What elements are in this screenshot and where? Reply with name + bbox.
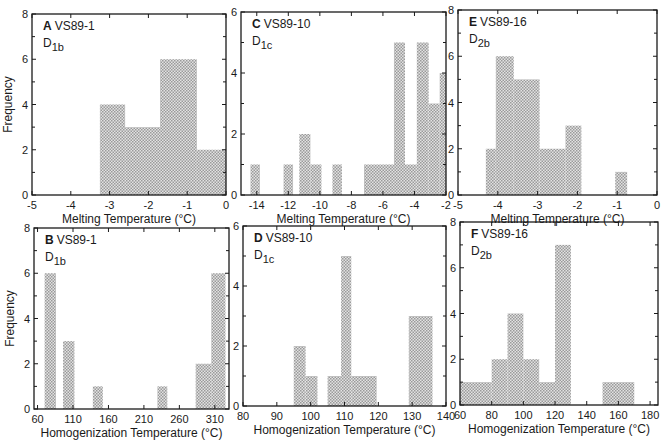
y-tick-label: 8 bbox=[22, 8, 28, 20]
sample-id: VS89-16 bbox=[480, 15, 527, 29]
panel-letter: E bbox=[469, 15, 477, 29]
x-tick-label: -1 bbox=[182, 199, 192, 211]
y-tick-label: 4 bbox=[231, 67, 237, 79]
histogram-bar bbox=[310, 165, 321, 196]
y-tick-label: 8 bbox=[24, 222, 30, 234]
x-tick-label: 0 bbox=[654, 199, 660, 211]
x-axis-label: Melting Temperature (°C) bbox=[491, 212, 625, 226]
histogram-bar bbox=[160, 59, 197, 195]
x-axis-label: Homogenization Temperature (°C) bbox=[254, 423, 436, 437]
x-tick-label: 310 bbox=[206, 413, 224, 425]
histogram-bar bbox=[45, 273, 56, 409]
x-tick-label: 110 bbox=[64, 413, 82, 425]
y-tick-label: 0 bbox=[22, 189, 28, 201]
x-axis-label: Homogenization Temperature (°C) bbox=[41, 426, 223, 440]
x-tick-label: 100 bbox=[514, 409, 532, 421]
x-axis-label: Melting Temperature (°C) bbox=[277, 212, 411, 226]
histogram-bar bbox=[294, 346, 306, 406]
histogram-bar bbox=[508, 314, 524, 406]
y-axis-label: Frequency bbox=[3, 290, 17, 347]
x-tick-label: 100 bbox=[301, 410, 319, 422]
x-tick-label: -2 bbox=[144, 199, 154, 211]
x-tick-label: -10 bbox=[312, 199, 328, 211]
histogram-bars bbox=[45, 273, 226, 409]
x-tick-label: 60 bbox=[31, 413, 43, 425]
stage-subscript: 1b bbox=[52, 41, 64, 53]
histogram-bar bbox=[460, 382, 492, 405]
histogram-panel-b: 6011016021026031002468Homogenization Tem… bbox=[3, 222, 229, 440]
stage-main: D bbox=[43, 36, 52, 50]
y-tick-label: 2 bbox=[450, 353, 456, 365]
deformation-stage: D1b bbox=[45, 250, 66, 267]
panel-title: CVS89-10 bbox=[252, 17, 311, 31]
x-tick-label: 160 bbox=[609, 409, 627, 421]
y-tick-label: 8 bbox=[448, 4, 454, 16]
x-tick-label: 0 bbox=[223, 199, 229, 211]
deformation-stage: D2b bbox=[471, 244, 492, 261]
histogram-bar bbox=[394, 43, 405, 196]
y-tick-label: 4 bbox=[22, 99, 28, 111]
x-tick-label: 260 bbox=[170, 413, 188, 425]
panel-title: BVS89-1 bbox=[45, 233, 97, 247]
x-tick-label: 130 bbox=[403, 410, 421, 422]
sample-id: VS89-10 bbox=[264, 17, 311, 31]
histogram-bar bbox=[125, 127, 160, 195]
histogram-bars bbox=[250, 43, 446, 196]
panel-letter: D bbox=[254, 231, 263, 245]
deformation-stage: D1c bbox=[252, 34, 273, 51]
stage-main: D bbox=[254, 248, 263, 262]
x-tick-label: -3 bbox=[533, 199, 543, 211]
panel-title: FVS89-16 bbox=[471, 227, 528, 241]
stage-main: D bbox=[469, 32, 478, 46]
x-tick-label: -4 bbox=[66, 199, 76, 211]
histogram-bar bbox=[523, 359, 539, 405]
histogram-bar bbox=[351, 376, 376, 406]
x-tick-label: 80 bbox=[486, 409, 498, 421]
histogram-bar bbox=[514, 79, 540, 195]
y-tick-label: 6 bbox=[450, 262, 456, 274]
histogram-panel-d: 80901001101201301400246Homogenization Te… bbox=[233, 220, 455, 437]
histogram-bar bbox=[364, 165, 394, 196]
histogram-bars bbox=[486, 56, 627, 195]
y-tick-label: 6 bbox=[24, 267, 30, 279]
stage-subscript: 1c bbox=[261, 39, 273, 51]
panel-letter: A bbox=[43, 19, 52, 33]
histogram-bar bbox=[100, 105, 125, 196]
y-tick-label: 2 bbox=[233, 340, 239, 352]
x-tick-label: 90 bbox=[271, 410, 283, 422]
histogram-bar bbox=[540, 149, 566, 195]
y-tick-label: 4 bbox=[450, 308, 456, 320]
x-axis-label: Melting Temperature (°C) bbox=[62, 212, 196, 226]
y-tick-label: 4 bbox=[233, 280, 239, 292]
histogram-bar bbox=[306, 376, 318, 406]
x-tick-label: -1 bbox=[612, 199, 622, 211]
histogram-bar bbox=[539, 382, 555, 405]
stage-subscript: 2b bbox=[480, 249, 492, 261]
sample-id: VS89-1 bbox=[57, 233, 97, 247]
stage-main: D bbox=[45, 250, 54, 264]
x-tick-label: 180 bbox=[641, 409, 659, 421]
stage-main: D bbox=[252, 34, 261, 48]
x-tick-label: -8 bbox=[346, 199, 356, 211]
deformation-stage: D2b bbox=[469, 32, 490, 49]
histogram-bar bbox=[196, 364, 212, 409]
x-tick-label: 120 bbox=[546, 409, 564, 421]
x-tick-label: 120 bbox=[369, 410, 387, 422]
histogram-bar bbox=[250, 165, 259, 196]
y-tick-label: 0 bbox=[231, 189, 237, 201]
histogram-bars bbox=[460, 245, 634, 405]
panel-letter: C bbox=[252, 17, 261, 31]
y-tick-label: 0 bbox=[233, 400, 239, 412]
histogram-bars bbox=[100, 59, 226, 195]
stage-subscript: 2b bbox=[478, 37, 490, 49]
histogram-bar bbox=[197, 150, 226, 195]
histogram-bar bbox=[299, 134, 310, 195]
stage-subscript: 1b bbox=[54, 255, 66, 267]
panel-letter: B bbox=[45, 233, 54, 247]
histogram-bar bbox=[63, 341, 74, 409]
histogram-panel-c: -14-12-10-8-6-4-20246Melting Temperature… bbox=[231, 6, 451, 226]
x-tick-label: -5 bbox=[27, 199, 37, 211]
histogram-bar bbox=[429, 104, 440, 196]
y-tick-label: 0 bbox=[450, 399, 456, 411]
y-tick-label: 6 bbox=[448, 50, 454, 62]
